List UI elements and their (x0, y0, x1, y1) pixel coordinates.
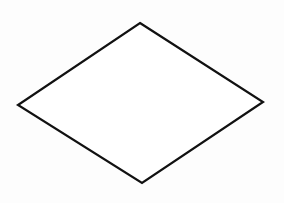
diagram-canvas (0, 0, 284, 203)
diamond-diagram (0, 0, 284, 203)
decision-diamond-shape (18, 23, 263, 183)
